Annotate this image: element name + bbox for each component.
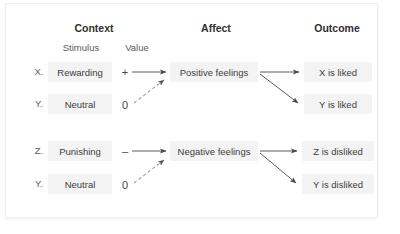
value-symbol-zero-2: 0 — [122, 180, 128, 191]
value-symbol-zero-1: 0 — [122, 100, 128, 111]
row-key-2: Y. — [35, 99, 43, 109]
diagram-card: Context Affect Outcome Stimulus Value X.… — [5, 3, 378, 218]
stimulus-box-neutral-2: Neutral — [48, 174, 112, 194]
column-header-affect: Affect — [201, 23, 231, 34]
outcome-box-y-is-disliked: Y is disliked — [302, 174, 374, 194]
column-header-outcome: Outcome — [314, 23, 360, 34]
affect-box-negative-feelings: Negative feelings — [170, 141, 258, 161]
arrow-neutral-to-positive-dashed — [134, 80, 164, 103]
sub-header-stimulus: Stimulus — [63, 43, 99, 53]
stimulus-box-neutral-1: Neutral — [48, 94, 112, 114]
arrow-neutral-to-negative-dashed — [134, 160, 164, 183]
column-header-context: Context — [74, 23, 113, 34]
arrow-positive-to-y-liked — [260, 74, 298, 103]
stimulus-box-rewarding: Rewarding — [48, 62, 112, 82]
row-key-4: Y. — [35, 179, 43, 189]
outcome-box-x-is-liked: X is liked — [304, 62, 372, 82]
sub-header-value: Value — [125, 43, 149, 53]
evaluative-conditioning-diagram: Context Affect Outcome Stimulus Value X.… — [6, 4, 378, 218]
row-key-3: Z. — [35, 146, 43, 156]
value-symbol-negative: – — [122, 146, 128, 157]
affect-box-positive-feelings: Positive feelings — [170, 62, 258, 82]
value-symbol-positive: + — [122, 67, 128, 78]
stimulus-box-punishing: Punishing — [48, 141, 112, 161]
outcome-box-y-is-liked: Y is liked — [304, 94, 372, 114]
arrow-negative-to-y-disliked — [260, 153, 296, 183]
row-key-1: X. — [35, 67, 44, 77]
outcome-box-z-is-disliked: Z is disliked — [302, 141, 374, 161]
